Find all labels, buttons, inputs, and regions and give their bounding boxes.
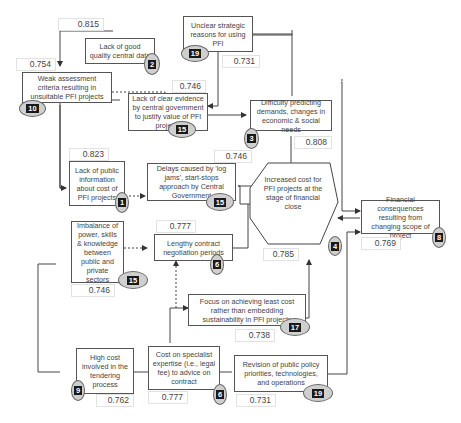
node-4-label: Increased cost for PFI projects at the s… — [262, 175, 324, 211]
score-node-19a: 0.731 — [222, 55, 260, 68]
rank-badge-node-19b: 19 — [303, 384, 333, 402]
node-8[interactable]: Financial consequences resulting from ch… — [361, 200, 440, 234]
node-4[interactable]: Increased cost for PFI projects at the s… — [262, 173, 324, 213]
node-10[interactable]: Weak assessment criteria resulting in un… — [22, 72, 112, 103]
node-3[interactable]: Difficulty predicting demands, changes i… — [250, 100, 332, 131]
score-node-19b: 0.731 — [236, 394, 276, 407]
score-node-8: 0.769 — [361, 237, 401, 250]
rank-badge-node-1: 1 — [115, 192, 129, 213]
node-9-label: High cost involved in the tendering proc… — [80, 353, 130, 389]
score-node-15c: 0.746 — [71, 284, 115, 297]
node-15a[interactable]: Lack of clear evidence by central govern… — [128, 93, 208, 131]
node-6b[interactable]: Cost on specialist expertise (i.e., lega… — [148, 346, 220, 390]
rank-badge-node-15a: 15 — [168, 121, 196, 138]
rank-badge-node-15c: 15 — [118, 271, 148, 289]
score-node-9: 0.762 — [96, 394, 134, 407]
node-8-label: Financial consequences resulting from ch… — [365, 195, 436, 240]
node-2-label: Lack of good quality central data — [89, 42, 151, 60]
rank-badge-node-19a: 19 — [181, 45, 209, 62]
rank-badge-node-2: 2 — [144, 53, 160, 75]
node-19a-label: Unclear strategic reasons for using PFI — [187, 21, 249, 48]
node-1-label: Lack of public information about cost of… — [73, 166, 121, 202]
node-3-label: Difficulty predicting demands, changes i… — [254, 98, 328, 134]
score-node-15b: 0.746 — [214, 150, 252, 163]
rank-badge-node-6a: 6 — [210, 254, 224, 275]
node-15c[interactable]: Imbalance of power, skills & knowledge b… — [71, 221, 124, 283]
rank-badge-node-8: 8 — [432, 227, 446, 248]
score-node-6b: 0.777 — [148, 391, 188, 404]
score-node-15a: 0.746 — [172, 80, 206, 93]
score-node-17: 0.738 — [235, 329, 275, 342]
rank-badge-node-10: 10 — [19, 100, 46, 117]
score-node-6a: 0.777 — [156, 220, 196, 233]
score-node-1: 0.823 — [69, 148, 109, 161]
rank-badge-node-9: 9 — [71, 380, 85, 401]
rank-badge-node-3: 3 — [244, 128, 259, 149]
node-6b-label: Cost on specialist expertise (i.e., lega… — [152, 350, 216, 386]
score-node-4: 0.785 — [263, 248, 299, 261]
node-19b-label: Revision of public policy priorities, te… — [238, 360, 324, 387]
score-node-10: 0.754 — [16, 58, 56, 71]
rank-badge-node-4: 4 — [328, 236, 342, 256]
node-10-label: Weak assessment criteria resulting in un… — [26, 74, 108, 101]
score-node-2: 0.815 — [58, 18, 104, 31]
node-15c-label: Imbalance of power, skills & knowledge b… — [75, 221, 120, 284]
score-node-3: 0.808 — [294, 136, 332, 149]
rank-badge-node-6b: 6 — [213, 384, 227, 405]
rank-badge-node-15b: 15 — [206, 193, 234, 211]
rank-badge-node-17: 17 — [280, 318, 310, 336]
